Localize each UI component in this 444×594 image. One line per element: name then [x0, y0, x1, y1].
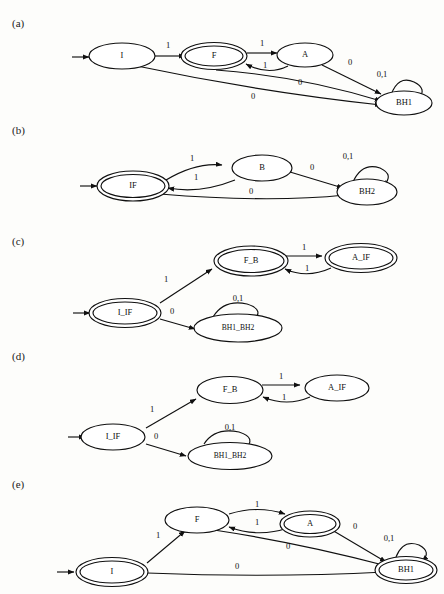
- figure-sheet: (a) (b) (c) (d) (e) I F: [0, 0, 444, 594]
- panel-e: I F A BH1 1 1 1 0 0 0 0,1: [57, 499, 437, 587]
- state-label-e-A: A: [307, 518, 314, 528]
- edge-label-d-I-BH: 0: [154, 431, 158, 441]
- edge-label-a-F-A: 1: [260, 38, 264, 48]
- state-label-d-F_B: F_B: [223, 384, 238, 394]
- state-label-c-F_B: F_B: [244, 255, 259, 265]
- panel-b: IF B BH2 1 1 0 0 0,1: [80, 151, 397, 205]
- edge-label-e-I-BH1: 0: [235, 561, 239, 571]
- panel-c: I_IF F_B A_IF BH1_BH2 1 0 1 1 0,1: [73, 242, 397, 342]
- edge-e-I-F: [147, 531, 185, 563]
- edge-label-c-I-BH: 0: [170, 306, 174, 316]
- edge-label-e-I-F: 1: [156, 530, 160, 540]
- edge-label-e-loop: 0,1: [384, 533, 395, 543]
- edge-label-b-B-BH2: 0: [310, 162, 314, 172]
- panel-d: I_IF F_B A_IF BH1_BH2 1 0 1 1 0,1: [68, 371, 369, 470]
- state-label-e-I: I: [111, 566, 114, 576]
- state-label-b-B: B: [259, 162, 265, 172]
- edge-d-AIF-FB: [263, 397, 310, 402]
- state-label-b-IF: IF: [129, 180, 137, 190]
- edge-label-d-F-A: 1: [279, 371, 283, 381]
- edge-label-c-A-F: 1: [305, 263, 309, 273]
- state-label-e-BH1: BH1: [398, 564, 414, 574]
- state-label-c-I_IF: I_IF: [118, 307, 133, 317]
- edge-label-a-A-BH1: 0: [348, 57, 352, 67]
- state-label-b-BH2: BH2: [359, 186, 375, 196]
- state-label-a-BH1: BH1: [396, 97, 412, 107]
- automata-figure: I F A BH1 1 1 1 0 0 0 0,1: [0, 0, 444, 594]
- state-label-d-A_IF: A_IF: [328, 382, 346, 392]
- edge-d-IIF-BH: [146, 444, 186, 456]
- state-label-c-A_IF: A_IF: [352, 252, 370, 262]
- state-label-a-F: F: [212, 50, 217, 60]
- edge-label-e-F-A: 1: [255, 499, 259, 509]
- edge-label-d-I-F: 1: [150, 404, 154, 414]
- state-label-a-A: A: [302, 49, 309, 59]
- edge-label-d-A-F: 1: [282, 392, 286, 402]
- state-label-c-BH1_BH2: BH1_BH2: [222, 323, 255, 332]
- edge-a-I-BH1: [137, 66, 381, 105]
- edge-label-d-loop: 0,1: [225, 422, 236, 432]
- edge-label-b-IF-BH2: 0: [249, 186, 253, 196]
- edge-label-c-loop: 0,1: [233, 293, 244, 303]
- edge-e-A-F: [229, 527, 288, 533]
- edge-label-b-B-IF: 1: [194, 172, 198, 182]
- state-label-e-F: F: [195, 514, 200, 524]
- edge-label-a-loop: 0,1: [377, 69, 388, 79]
- state-label-d-BH1_BH2: BH1_BH2: [214, 451, 247, 460]
- edge-label-c-I-F: 1: [164, 274, 168, 284]
- edge-label-a-I-F: 1: [166, 40, 170, 50]
- edge-label-b-IF-B: 1: [190, 153, 194, 163]
- panel-a: I F A BH1 1 1 1 0 0 0 0,1: [72, 38, 432, 115]
- edge-c-IIF-BH: [160, 319, 195, 329]
- edge-label-c-F-A: 1: [302, 242, 306, 252]
- edge-b-B-BH2: [290, 172, 343, 188]
- edge-e-A-BH1: [332, 530, 386, 562]
- edge-a-A-BH1: [322, 65, 381, 94]
- edge-e-I-BH1: [147, 572, 385, 575]
- edge-label-a-F-BH1: 0: [298, 77, 302, 87]
- edge-label-e-F-BH1: 0: [286, 541, 290, 551]
- edge-label-a-I-BH1: 0: [251, 91, 255, 101]
- state-label-a-I: I: [121, 50, 124, 60]
- edge-b-B-IF: [168, 180, 235, 190]
- edge-e-F-A: [229, 510, 285, 515]
- state-label-d-I_IF: I_IF: [106, 431, 121, 441]
- edge-label-e-A-BH1: 0: [353, 521, 357, 531]
- edge-label-a-A-F: 1: [263, 60, 267, 70]
- edge-label-e-A-F: 1: [255, 517, 259, 527]
- edge-label-b-loop: 0,1: [343, 151, 354, 161]
